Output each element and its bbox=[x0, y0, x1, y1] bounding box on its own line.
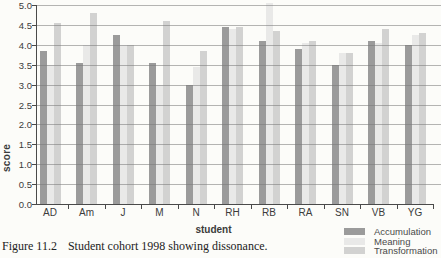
gridline-0.5 bbox=[36, 184, 441, 185]
legend-swatch-accumulation bbox=[344, 228, 365, 235]
legend-swatch-meaning bbox=[344, 238, 365, 245]
x-tick-label-Am: Am bbox=[68, 207, 105, 218]
x-tick-label-YG: YG bbox=[397, 207, 434, 218]
bar-accumulation-RH bbox=[222, 27, 229, 204]
x-tick-label-M: M bbox=[141, 207, 178, 218]
x-tick-label-N: N bbox=[178, 207, 215, 218]
y-tick-label: 1.5 bbox=[6, 139, 32, 150]
plot-area: 0.00.51.01.52.02.53.03.54.04.55.0ADAmJMN… bbox=[0, 0, 441, 258]
bar-transformation-VB bbox=[382, 29, 389, 204]
bar-transformation-N bbox=[200, 51, 207, 204]
y-tick-label: 3.0 bbox=[6, 80, 32, 91]
x-tick-label-J: J bbox=[105, 207, 142, 218]
gridline-5.0 bbox=[36, 5, 441, 6]
x-tick-label-AD: AD bbox=[32, 207, 69, 218]
y-tick-label: 2.5 bbox=[6, 100, 32, 111]
figure-page: score 0.00.51.01.52.02.53.03.54.04.55.0A… bbox=[0, 0, 441, 258]
y-tick-label: 2.0 bbox=[6, 119, 32, 130]
y-tick-label: 3.5 bbox=[6, 60, 32, 71]
x-tick-label-RH: RH bbox=[214, 207, 251, 218]
legend-item-transformation: Transformation bbox=[344, 246, 438, 256]
gridline-1.0 bbox=[36, 164, 441, 165]
bar-transformation-M bbox=[163, 21, 170, 204]
figure-caption: Figure 11.2Student cohort 1998 showing d… bbox=[2, 239, 332, 254]
y-tick-label: 4.0 bbox=[6, 40, 32, 51]
bar-meaning-RB bbox=[266, 3, 273, 204]
gridline-4.5 bbox=[36, 25, 441, 26]
figure-label: Figure 11.2 bbox=[2, 239, 57, 253]
bar-meaning-RH bbox=[229, 29, 236, 204]
y-tick-label: 4.5 bbox=[6, 20, 32, 31]
y-tick-label: 1.0 bbox=[6, 159, 32, 170]
gridline-2.0 bbox=[36, 124, 441, 125]
bar-meaning-RA bbox=[302, 43, 309, 204]
gridline-4.0 bbox=[36, 45, 441, 46]
legend: Accumulation Meaning Transformation bbox=[344, 227, 438, 256]
bar-accumulation-RA bbox=[295, 49, 302, 204]
x-tick-label-SN: SN bbox=[324, 207, 361, 218]
bar-transformation-RH bbox=[236, 27, 243, 204]
x-tick-label-RB: RB bbox=[251, 207, 288, 218]
bar-accumulation-AD bbox=[40, 51, 47, 204]
legend-swatch-transformation bbox=[344, 247, 365, 254]
x-tick-label-RA: RA bbox=[287, 207, 324, 218]
bar-transformation-SN bbox=[346, 53, 353, 204]
gridline-3.5 bbox=[36, 65, 441, 66]
y-axis-line bbox=[36, 5, 37, 205]
bar-meaning-VB bbox=[375, 43, 382, 204]
y-tick-label: 5.0 bbox=[6, 0, 32, 11]
bar-meaning-YG bbox=[412, 35, 419, 204]
legend-label: Transformation bbox=[374, 245, 438, 256]
x-axis-line bbox=[36, 204, 434, 205]
bar-meaning-SN bbox=[339, 53, 346, 204]
x-tick-label-VB: VB bbox=[360, 207, 397, 218]
bar-transformation-Am bbox=[90, 13, 97, 204]
y-tick-label: 0.0 bbox=[6, 199, 32, 210]
bar-transformation-AD bbox=[54, 23, 61, 204]
gridline-3.0 bbox=[36, 85, 441, 86]
bar-accumulation-J bbox=[113, 35, 120, 204]
y-tick-label: 0.5 bbox=[6, 179, 32, 190]
bar-transformation-RB bbox=[273, 31, 280, 204]
gridline-2.5 bbox=[36, 105, 441, 106]
gridline-1.5 bbox=[36, 144, 441, 145]
bar-transformation-YG bbox=[419, 33, 426, 204]
caption-text: Student cohort 1998 showing dissonance. bbox=[68, 239, 268, 253]
